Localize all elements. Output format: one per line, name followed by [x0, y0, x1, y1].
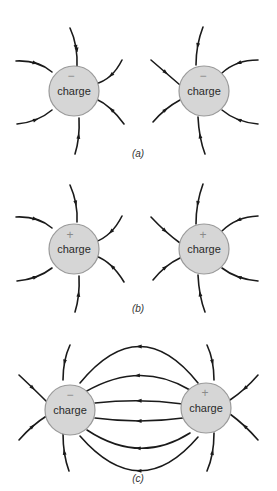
field-line [153, 100, 180, 122]
charge-label: charge [57, 243, 91, 255]
charge-label: charge [187, 243, 221, 255]
arrow-icon [136, 399, 142, 403]
field-line [198, 117, 205, 154]
field-line [96, 256, 124, 282]
field-line [19, 415, 48, 440]
caption-c: (c) [132, 473, 144, 484]
panel-c: − charge + charge (c) [19, 345, 258, 484]
connecting-field-line [87, 430, 190, 448]
charge-label: charge [187, 85, 221, 97]
charge-sign: − [66, 388, 73, 402]
charge-sign: − [67, 69, 74, 83]
charge-label: charge [189, 402, 223, 414]
charge-sign: + [199, 228, 206, 242]
panel-a: − charge − charge (a) [16, 27, 258, 159]
arrow-icon [134, 374, 140, 378]
arrow-icon [32, 60, 38, 64]
caption-b: (b) [132, 303, 144, 314]
field-line [198, 275, 205, 312]
charge-sign: + [201, 386, 208, 400]
connecting-field-line [80, 436, 198, 471]
field-line [153, 258, 180, 280]
arrow-icon [236, 119, 242, 123]
field-line [95, 216, 122, 242]
connecting-field-line [80, 347, 198, 384]
charge-sign: − [199, 69, 206, 83]
arrow-icon [236, 276, 242, 280]
charge-sign: + [66, 228, 73, 242]
arrow-icon [136, 345, 142, 349]
charge-label: charge [53, 404, 87, 416]
field-line [230, 414, 258, 440]
panel-b: + charge + charge (b) [16, 184, 258, 314]
field-line [95, 60, 122, 84]
arrow-icon [32, 216, 38, 220]
arrow-icon [33, 119, 39, 123]
electric-field-diagram: − charge − charge (a) + charge + [0, 0, 277, 491]
arrow-icon [236, 60, 242, 64]
arrow-icon [236, 217, 242, 221]
arrow-icon [136, 419, 142, 423]
field-line [230, 375, 258, 400]
field-line [96, 99, 124, 124]
caption-a: (a) [132, 148, 144, 159]
charge-label: charge [57, 85, 91, 97]
arrow-icon [32, 276, 38, 280]
connecting-field-line [85, 375, 190, 392]
arrow-icon [135, 446, 141, 450]
